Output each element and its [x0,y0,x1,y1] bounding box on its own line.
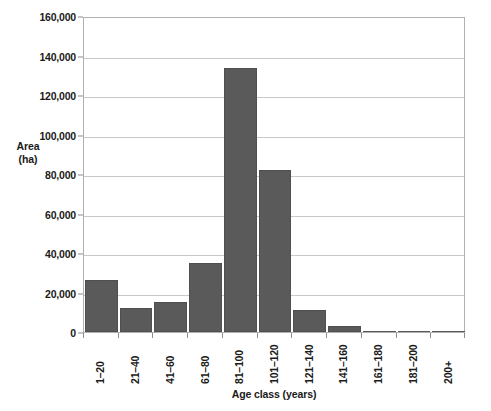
bar [363,331,396,332]
y-axis-tick-labels: 020,00040,00060,00080,000100,000120,0001… [0,0,76,411]
y-axis-tick-label: 100,000 [10,130,76,142]
bar [293,310,326,332]
x-axis-tick-label: 41–60 [164,338,176,384]
bar [398,331,431,332]
x-axis-tick-label: 161–180 [372,338,384,384]
y-axis-tick-label: 0 [10,327,76,339]
bar [85,280,118,332]
bars-layer [84,18,464,332]
histogram-chart: Area (ha) 020,00040,00060,00080,000100,0… [0,0,491,411]
y-axis-tick-label: 60,000 [10,209,76,221]
bar [259,170,292,332]
bar [328,326,361,332]
x-axis-tick-labels: 1–2021–4041–6061–8081–100101–120121–1401… [83,338,465,386]
y-axis-tick-label: 120,000 [10,90,76,102]
x-axis-tick-label: 121–140 [303,338,315,384]
bar [120,308,153,332]
x-axis-tick-label: 81–100 [233,338,245,384]
x-axis-title: Age class (years) [83,388,465,400]
bar [432,331,465,332]
plot-area [83,17,465,333]
x-axis-tick-label: 141–160 [337,338,349,384]
y-axis-tick-label: 140,000 [10,51,76,63]
y-axis-tick-label: 40,000 [10,248,76,260]
bar [189,263,222,332]
bar [154,302,187,332]
x-axis-tick-label: 101–120 [268,338,280,384]
x-axis-tick-label: 21–40 [129,338,141,384]
y-axis-tick-label: 80,000 [10,169,76,181]
x-axis-tick-label: 61–80 [199,338,211,384]
x-axis-tick-label: 1–20 [94,338,106,384]
y-axis-tick-label: 160,000 [10,11,76,23]
bar [224,68,257,332]
x-axis-tick-label: 200+ [442,338,454,384]
y-axis-tick-label: 20,000 [10,288,76,300]
x-axis-tick-label: 181–200 [407,338,419,384]
